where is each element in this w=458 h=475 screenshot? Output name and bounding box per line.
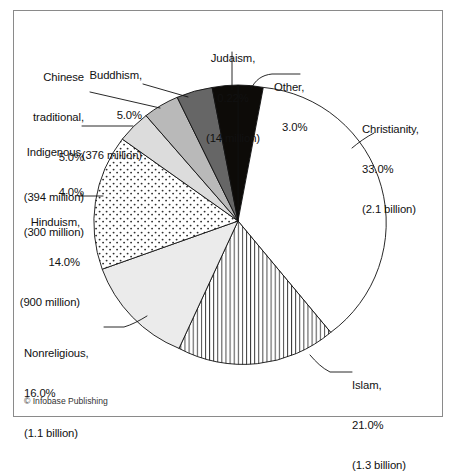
label-christianity-name: Christianity, <box>362 123 458 136</box>
leader-islam <box>310 355 352 372</box>
label-other: Other, 3.0% <box>274 54 354 148</box>
label-other-percent: 3.0% <box>282 121 354 134</box>
label-hinduism-count: (900 million) <box>0 296 80 309</box>
label-hinduism-percent: 14.0% <box>0 256 80 269</box>
label-buddhism-name: Buddhism, <box>38 69 142 82</box>
label-judaism-count: (14 million) <box>182 132 284 145</box>
label-judaism-name: Judaism, <box>182 52 284 65</box>
label-christianity-count: (2.1 billion) <box>362 203 458 216</box>
label-buddhism: Buddhism, 5.0% (376 million) <box>38 42 142 176</box>
label-christianity: Christianity, 33.0% (2.1 billion) <box>362 96 458 230</box>
label-buddhism-count: (376 million) <box>38 149 142 162</box>
label-islam-percent: 21.0% <box>352 419 452 432</box>
label-indigenous-count: (300 million) <box>0 226 84 239</box>
label-nonreligious-count: (1.1 billion) <box>24 427 116 440</box>
label-judaism: Judaism, 0.22% (14 million) <box>182 25 284 159</box>
copyright-credit: © Infobase Publishing <box>24 396 108 406</box>
label-christianity-percent: 33.0% <box>362 163 458 176</box>
label-nonreligious: Nonreligious, 16.0% (1.1 billion) <box>24 320 116 454</box>
label-islam-count: (1.3 billion) <box>352 459 452 472</box>
label-other-name: Other, <box>274 81 354 94</box>
label-islam: Islam, 21.0% (1.3 billion) <box>352 352 452 475</box>
label-chinese-count: (394 million) <box>0 191 84 204</box>
label-nonreligious-name: Nonreligious, <box>24 347 116 360</box>
label-islam-name: Islam, <box>352 379 452 392</box>
label-buddhism-percent: 5.0% <box>38 109 142 122</box>
label-judaism-percent: 0.22% <box>182 92 284 105</box>
